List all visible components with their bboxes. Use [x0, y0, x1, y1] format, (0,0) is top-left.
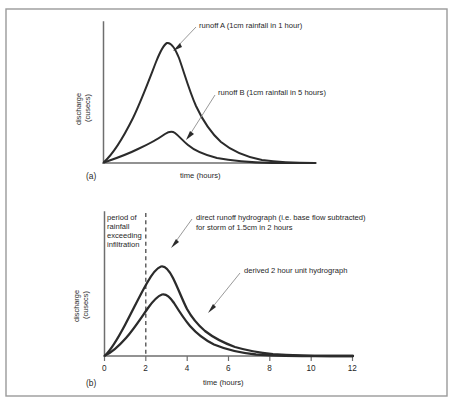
figure-container: discharge (cusecs) time (hours) (a) runo…	[0, 0, 454, 408]
panel-a: discharge (cusecs) time (hours) (a) runo…	[74, 21, 326, 181]
panel-b-tick-label-12: 12	[348, 364, 358, 373]
panel-b-tick-label-10: 10	[306, 364, 316, 373]
panel-b-tag: (b)	[86, 378, 96, 388]
panel-b-y-axis-label-line1: discharge	[72, 290, 81, 322]
curve-direct-runoff-hydrograph	[105, 266, 353, 356]
panel-a-y-axis-label-line1: discharge	[74, 93, 83, 125]
panel-b-period-label: period of rainfall exceeding infiltratio…	[107, 213, 142, 249]
panel-b-tick-label-0: 0	[102, 364, 107, 373]
panel-b-tick-label-6: 6	[226, 364, 231, 373]
panel-b-arrow-unit	[208, 304, 216, 313]
period-label-line3: exceeding	[107, 231, 142, 240]
panel-b: 0 2 4 6 8 10 12 discharge (cusecs) time …	[72, 212, 366, 388]
figure-border	[6, 9, 447, 396]
panel-a-annotation-runoff-b: runoff B (1cm rainfall in 5 hours)	[218, 88, 326, 97]
curve-derived-unit-hydrograph	[105, 294, 353, 356]
period-label-line2: rainfall	[107, 222, 130, 231]
panel-b-tick-label-2: 2	[143, 364, 148, 373]
period-label-line4: infiltration	[107, 240, 140, 249]
period-label-line1: period of	[107, 213, 137, 222]
panel-a-tag: (a)	[86, 171, 96, 181]
panel-b-arrow-direct	[171, 239, 179, 248]
panel-a-annotation-runoff-a: runoff A (1cm rainfall in 1 hour)	[199, 21, 303, 30]
panel-a-x-axis-label: time (hours)	[180, 171, 221, 180]
panel-b-x-axis-label: time (hours)	[203, 378, 244, 387]
panel-b-annotation-unit: derived 2 hour unit hydrograph	[244, 266, 347, 275]
curve-runoff-b	[104, 132, 315, 163]
panel-b-annotation-direct-line2: for storm of 1.5cm in 2 hours	[196, 223, 293, 232]
panel-b-tick-label-4: 4	[185, 364, 190, 373]
panel-b-y-axis-label-line2: (cusecs)	[81, 291, 90, 319]
panel-a-arrow-b	[186, 131, 194, 140]
panel-b-leader-unit	[211, 273, 240, 309]
panel-b-annotation-direct-line1: direct runoff hydrograph (i.e. base flow…	[196, 213, 366, 222]
panel-b-tick-label-8: 8	[267, 364, 272, 373]
panel-a-y-axis-label-line2: (cusecs)	[83, 94, 92, 122]
